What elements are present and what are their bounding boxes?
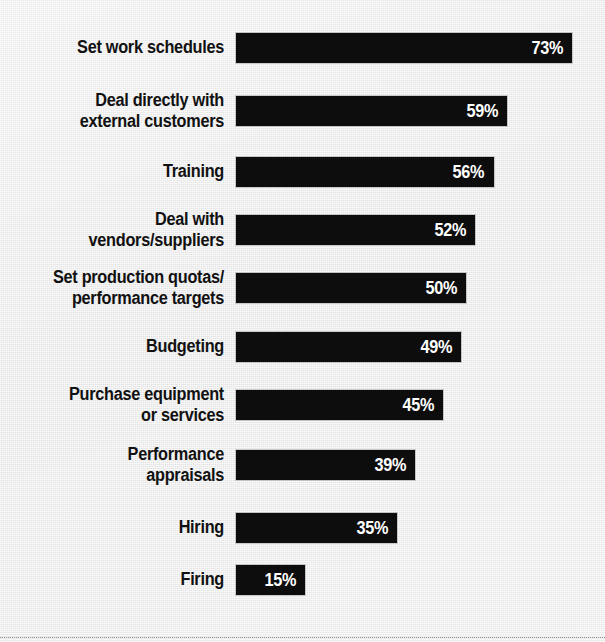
bar-value-label: 45% — [402, 390, 434, 420]
bar-row: Training56% — [0, 157, 605, 187]
bar: 59% — [236, 96, 507, 126]
bar-category-label: Training — [0, 161, 224, 182]
bar: 52% — [236, 215, 475, 245]
bar-row: Deal with vendors/suppliers52% — [0, 215, 605, 245]
bar-category-label: Purchase equipment or services — [0, 384, 224, 426]
bar-value-label: 15% — [264, 565, 296, 595]
bar: 39% — [236, 450, 415, 480]
bar-value-label: 50% — [425, 273, 457, 303]
bar-row: Hiring35% — [0, 513, 605, 543]
bar-category-label: Performance appraisals — [0, 444, 224, 486]
bar-category-label: Budgeting — [0, 336, 224, 357]
bar: 35% — [236, 513, 397, 543]
bar-track: 50% — [236, 273, 581, 303]
bottom-dotted-rule — [0, 637, 605, 638]
bar-category-label: Deal directly with external customers — [0, 90, 224, 132]
bar-track: 56% — [236, 157, 581, 187]
bar-track: 52% — [236, 215, 581, 245]
horizontal-bar-chart: Set work schedules73%Deal directly with … — [0, 0, 605, 642]
bar: 50% — [236, 273, 466, 303]
bar-row: Purchase equipment or services45% — [0, 390, 605, 420]
bar-row: Deal directly with external customers59% — [0, 96, 605, 126]
bar: 49% — [236, 332, 461, 362]
bar-track: 15% — [236, 565, 581, 595]
bar-row: Firing15% — [0, 565, 605, 595]
bar-value-label: 52% — [434, 215, 466, 245]
bar-value-label: 56% — [453, 157, 485, 187]
bar-row: Set work schedules73% — [0, 33, 605, 63]
bar-row: Performance appraisals39% — [0, 450, 605, 480]
bar-value-label: 59% — [467, 96, 499, 126]
bar-category-label: Set production quotas/ performance targe… — [0, 267, 224, 309]
bar-track: 35% — [236, 513, 581, 543]
bar-track: 45% — [236, 390, 581, 420]
bar: 15% — [236, 565, 305, 595]
bar-value-label: 35% — [356, 513, 388, 543]
bar-category-label: Deal with vendors/suppliers — [0, 209, 224, 251]
bar-track: 59% — [236, 96, 581, 126]
bar-value-label: 73% — [531, 33, 563, 63]
bar-category-label: Set work schedules — [0, 37, 224, 58]
bar-track: 39% — [236, 450, 581, 480]
bar-value-label: 39% — [375, 450, 407, 480]
bar: 45% — [236, 390, 443, 420]
bar-row: Budgeting49% — [0, 332, 605, 362]
bar: 73% — [236, 33, 572, 63]
bar-row: Set production quotas/ performance targe… — [0, 273, 605, 303]
bar-value-label: 49% — [421, 332, 453, 362]
bar-track: 73% — [236, 33, 581, 63]
bar-category-label: Firing — [0, 569, 224, 590]
bar: 56% — [236, 157, 494, 187]
bar-track: 49% — [236, 332, 581, 362]
bar-category-label: Hiring — [0, 517, 224, 538]
